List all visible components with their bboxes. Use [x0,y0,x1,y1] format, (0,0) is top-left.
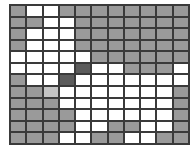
grid-cell-white [157,75,171,85]
grid-cell-gray [76,6,90,16]
grid-cell-white [11,52,25,62]
grid-cell-gray [109,122,123,132]
grid-cell-gray [11,29,25,39]
grid-cell-white [44,6,58,16]
grid-cell-white [157,110,171,120]
grid-cell-white [60,41,74,51]
grid-cell-gray [44,133,58,143]
grid-cell-gray [11,133,25,143]
grid-cell-gray [125,64,139,74]
grid-cell-white [76,110,90,120]
grid-cell-gray [141,18,155,28]
grid-cell-gray [11,18,25,28]
grid-cell-gray [109,6,123,16]
grid-cell-gray [125,122,139,132]
grid-cell-gray [92,52,106,62]
grid-cell-gray [92,6,106,16]
grid-cell-gray [125,29,139,39]
grid-cell-gray [92,41,106,51]
grid-cell-white [109,110,123,120]
grid-cell-gray [157,133,171,143]
grid-cell-gray [174,41,188,51]
grid-cell-white [60,29,74,39]
grid-cell-white [44,64,58,74]
grid-cell-gray [92,18,106,28]
grid-cell-gray [174,29,188,39]
grid-cell-gray [27,122,41,132]
grid-cell-gray [27,87,41,97]
grid-cell-gray [174,133,188,143]
grid-cell-gray [76,41,90,51]
grid-cell-white [157,122,171,132]
grid-cell-white [141,87,155,97]
grid-cell-gray [174,87,188,97]
grid-cell-white [60,52,74,62]
grid-cell-gray [157,41,171,51]
grid-cell-gray [174,122,188,132]
grid-cell-gray [125,6,139,16]
grid-cell-gray [141,41,155,51]
grid-cell-gray [157,18,171,28]
grid-cell-white [60,133,74,143]
grid-cell-white [76,87,90,97]
grid-cell-white [92,87,106,97]
grid-cell-white [174,75,188,85]
grid-cell-white [44,75,58,85]
grid-cell-gray [109,41,123,51]
grid-cell-white [92,110,106,120]
grid-cell-gray [157,6,171,16]
grid-cell-white [44,52,58,62]
grid-cell-gray [44,99,58,109]
grid-cell-white [76,75,90,85]
grid-cell-white [157,87,171,97]
grid-cell-gray [125,18,139,28]
grid-cell-white [174,64,188,74]
grid-cell-gray [60,122,74,132]
grid-cell-white [125,110,139,120]
grid-cell-gray [174,52,188,62]
grid-cell-gray [92,133,106,143]
grid-cell-gray [60,110,74,120]
grid-cell-gray [141,64,155,74]
grid-cell-white [109,75,123,85]
grid-cell-gray [27,133,41,143]
grid-cell-white [125,99,139,109]
grid-cell-white [76,133,90,143]
grid-cell-gray [109,18,123,28]
grid-cell-white [11,64,25,74]
grid-cell-gray [157,64,171,74]
grid-cell-white [76,122,90,132]
grid-cell-white [27,29,41,39]
grid-cell-gray [109,29,123,39]
grid-cell-gray [11,99,25,109]
grid-cell-white [92,99,106,109]
grid-cell-white [141,75,155,85]
grid-cell-white [109,64,123,74]
grid-cell-gray [11,41,25,51]
grid-cell-gray [11,87,25,97]
tile-grid [9,4,190,145]
grid-cell-gray [76,18,90,28]
grid-cell-gray [157,52,171,62]
grid-cell-white [27,41,41,51]
grid-cell-gray [11,122,25,132]
grid-cell-white [60,18,74,28]
grid-cell-white [92,64,106,74]
grid-cell-gray [44,110,58,120]
grid-cell-white [27,64,41,74]
grid-cell-white [76,99,90,109]
grid-cell-dark [76,64,90,74]
grid-cell-gray [11,75,25,85]
grid-cell-white [141,122,155,132]
grid-cell-light-gray [44,87,58,97]
grid-cell-gray [174,18,188,28]
grid-cell-gray [27,18,41,28]
grid-cell-white [141,133,155,143]
grid-cell-white [27,6,41,16]
grid-cell-white [157,99,171,109]
grid-cell-white [125,87,139,97]
grid-cell-gray [109,52,123,62]
grid-cell-gray [174,6,188,16]
grid-cell-gray [92,29,106,39]
grid-cell-gray [125,52,139,62]
